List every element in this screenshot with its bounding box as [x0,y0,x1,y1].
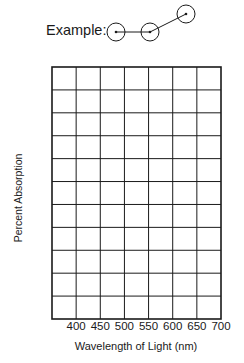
x-axis-label: Wavelength of Light (nm) [75,340,197,352]
graph-grid [0,0,244,363]
y-axis-label: Percent Absorption [12,154,24,243]
x-tick-label: 650 [187,320,206,332]
x-tick-label: 700 [211,320,230,332]
x-tick-label: 450 [91,320,110,332]
x-tick-label: 400 [67,320,86,332]
x-tick-label: 600 [163,320,182,332]
x-tick-label: 550 [139,320,158,332]
x-tick-label: 500 [115,320,134,332]
